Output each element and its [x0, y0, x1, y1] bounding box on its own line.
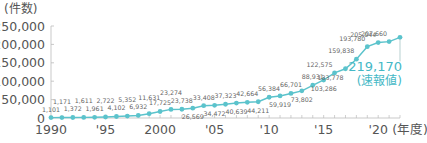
- data-label: 40,639: [225, 108, 247, 115]
- x-tick-label: '15: [314, 122, 333, 137]
- data-point: [70, 115, 75, 120]
- data-label: 1,171: [53, 98, 71, 105]
- data-label: 4,102: [107, 104, 125, 111]
- x-axis-unit-label: (年度): [392, 122, 427, 137]
- data-point: [136, 113, 141, 118]
- data-point: [278, 94, 283, 99]
- data-label: 2,722: [97, 97, 115, 104]
- data-point: [387, 39, 392, 44]
- data-label: 5,352: [118, 96, 136, 103]
- x-tick-label: 1990: [35, 122, 67, 137]
- data-label: 59,919: [269, 101, 291, 108]
- data-point: [158, 109, 163, 114]
- data-point: [190, 106, 195, 111]
- x-tick-label: '20: [369, 122, 388, 137]
- data-label: 33,408: [193, 94, 215, 101]
- data-point: [179, 107, 184, 112]
- data-point: [212, 103, 217, 108]
- data-point: [103, 115, 108, 120]
- data-label: 66,701: [280, 81, 302, 88]
- x-tick-label: '10: [259, 122, 278, 137]
- data-label: 44,211: [247, 107, 269, 114]
- y-tick-label: 250,000: [0, 19, 45, 34]
- data-point: [234, 101, 239, 106]
- data-label: 103,286: [311, 85, 337, 92]
- data-point: [92, 115, 97, 120]
- x-tick-label: '95: [96, 122, 115, 137]
- data-point: [81, 115, 86, 120]
- data-label: 56,384: [258, 85, 280, 92]
- data-label: 1,611: [75, 97, 93, 104]
- data-label: 26,569: [182, 113, 204, 120]
- data-point: [245, 100, 250, 105]
- data-label: 23,274: [160, 89, 182, 96]
- data-point: [299, 88, 304, 93]
- data-point: [60, 115, 65, 120]
- x-tick-label: '05: [205, 122, 224, 137]
- data-label: 207,660: [361, 30, 387, 37]
- data-label: 1,372: [64, 105, 82, 112]
- data-point: [267, 95, 272, 100]
- y-tick-label: 100,000: [0, 74, 45, 89]
- data-point: [125, 114, 130, 119]
- y-tick-label: 50,000: [1, 92, 45, 107]
- data-point: [223, 102, 228, 107]
- data-point: [114, 114, 119, 119]
- data-label: 1,961: [86, 105, 104, 112]
- data-point: [343, 66, 348, 71]
- data-label: 6,932: [129, 103, 147, 110]
- x-tick-label: 2000: [144, 122, 176, 137]
- data-label: 73,802: [291, 96, 313, 103]
- data-point: [49, 115, 54, 120]
- data-label: 17,725: [149, 99, 171, 106]
- data-point: [376, 40, 381, 45]
- data-label: 1,101: [42, 106, 60, 113]
- data-label: 23,738: [171, 97, 193, 104]
- highlight-note-label: (速報値): [357, 73, 402, 88]
- y-tick-label: 150,000: [0, 55, 45, 70]
- y-axis-unit-label: (件数): [4, 1, 37, 16]
- data-point: [169, 107, 174, 112]
- data-point: [365, 44, 370, 49]
- highlight-value-label: 219,170: [348, 59, 402, 74]
- highlight-annotation: 219,170(速報値): [348, 39, 402, 88]
- data-label: 122,575: [307, 61, 333, 68]
- data-label: 159,838: [328, 47, 354, 54]
- data-label: 34,472: [204, 110, 226, 117]
- data-point: [201, 103, 206, 108]
- y-tick-label: 200,000: [0, 37, 45, 52]
- data-point: [256, 99, 261, 104]
- data-point: [398, 35, 403, 40]
- data-point: [147, 111, 152, 116]
- line-chart: (件数) 050,000100,000150,000200,000250,000…: [0, 0, 427, 143]
- data-label: 42,664: [236, 90, 258, 97]
- data-label: 133,778: [317, 74, 343, 81]
- data-label: 37,323: [214, 92, 236, 99]
